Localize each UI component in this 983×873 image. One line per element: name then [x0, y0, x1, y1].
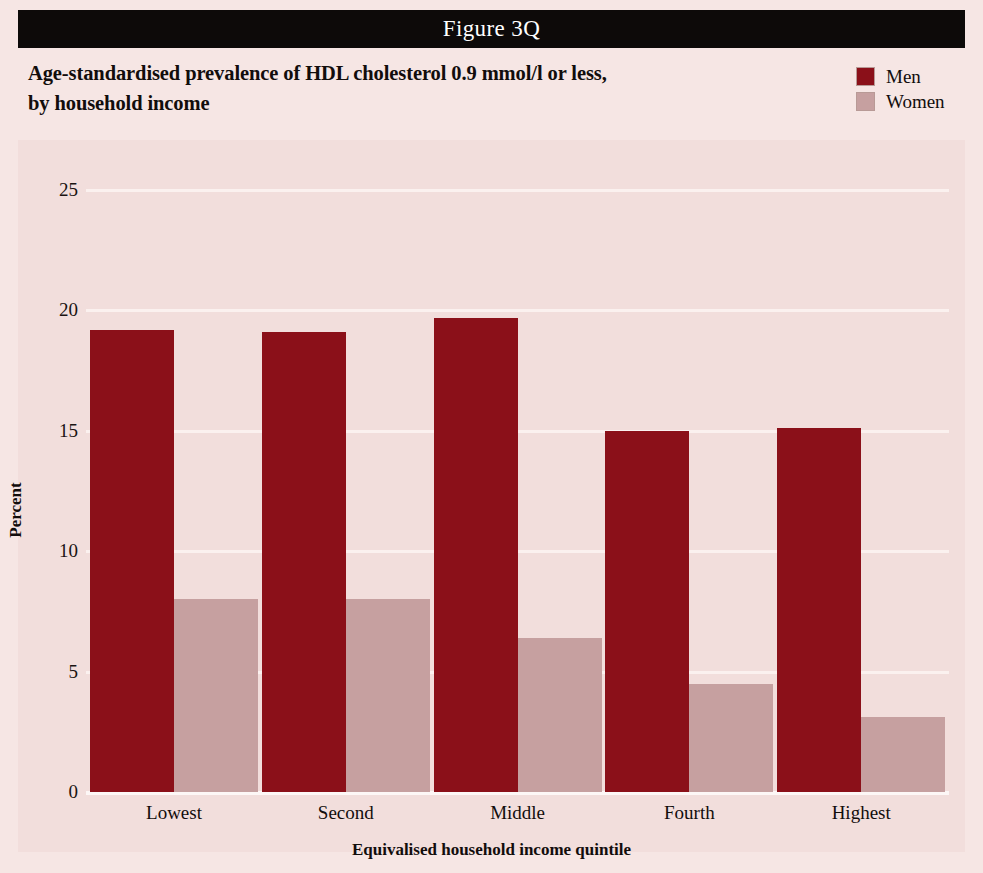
x-category-label: Middle: [490, 802, 545, 824]
figure-page: Figure 3Q Age-standardised prevalence of…: [0, 0, 983, 873]
legend-item-men: Men: [856, 64, 976, 89]
bar-men-highest: [777, 428, 861, 792]
bar-men-lowest: [90, 330, 174, 792]
chart-title-line-1: Age-standardised prevalence of HDL chole…: [28, 58, 818, 88]
x-category-label: Lowest: [146, 802, 202, 824]
bar-men-middle: [434, 318, 518, 792]
legend-swatch-women: [856, 92, 875, 111]
figure-header-bar: Figure 3Q: [18, 10, 965, 48]
legend-label-women: Women: [886, 91, 945, 113]
bar-women-fourth: [689, 684, 773, 792]
bar-women-lowest: [174, 599, 258, 792]
x-axis-title: Equivalised household income quintile: [0, 840, 983, 860]
bar-women-middle: [518, 638, 602, 792]
x-category-label: Second: [318, 802, 374, 824]
chart-title-block: Age-standardised prevalence of HDL chole…: [28, 58, 818, 118]
figure-number-label: Figure 3Q: [443, 16, 541, 42]
bar-women-highest: [861, 717, 945, 792]
chart-title-line-2: by household income: [28, 88, 818, 118]
chart-legend: Men Women: [856, 64, 976, 114]
legend-item-women: Women: [856, 89, 976, 114]
bar-men-second: [262, 332, 346, 792]
bars-layer: [0, 140, 983, 873]
x-category-label: Fourth: [664, 802, 715, 824]
bar-women-second: [346, 599, 430, 792]
x-category-label: Highest: [832, 802, 891, 824]
legend-label-men: Men: [886, 66, 921, 88]
legend-swatch-men: [856, 67, 875, 86]
bar-men-fourth: [605, 431, 689, 792]
plot-area: Percent 0510152025 LowestSecondMiddleFou…: [0, 140, 983, 873]
